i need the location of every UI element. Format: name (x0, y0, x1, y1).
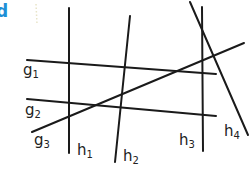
label-h4: h4 (224, 122, 240, 141)
label-h1: h1 (77, 141, 93, 160)
line-h2 (115, 16, 130, 162)
label-g3: g3 (34, 131, 50, 150)
label-g2: g2 (25, 101, 41, 120)
line-diagram: d g1 g2 g3 h1 h2 h3 h4 (0, 0, 252, 179)
corner-label: d (0, 1, 8, 21)
line-g3 (32, 43, 244, 132)
label-h3: h3 (179, 131, 195, 150)
label-h2: h2 (123, 147, 139, 166)
label-g1: g1 (23, 61, 39, 80)
scan-artifact (36, 4, 37, 24)
